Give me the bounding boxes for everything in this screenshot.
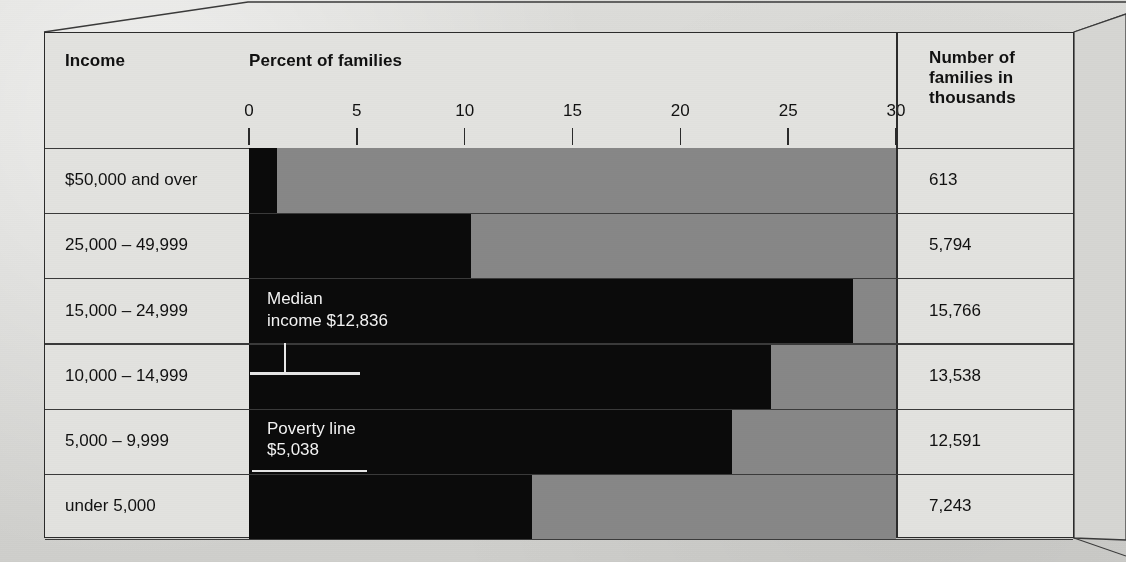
x-tick-mark-10 — [464, 128, 465, 145]
annotation-median-income: Median income $12,836 — [267, 288, 388, 332]
row-separator — [45, 474, 1073, 475]
row-value-count: 13,538 — [929, 366, 981, 386]
row-value-count: 15,766 — [929, 301, 981, 321]
table-row: 15,000 – 24,99915,766 — [45, 278, 1075, 343]
x-tick-label-5: 5 — [352, 101, 361, 121]
row-separator — [45, 409, 1073, 410]
x-tick-label-25: 25 — [779, 101, 798, 121]
annotation-median-leader-line — [284, 343, 286, 373]
x-tick-label-10: 10 — [455, 101, 474, 121]
table-row: under 5,0007,243 — [45, 474, 1075, 539]
bar-track-segment — [249, 148, 896, 213]
annotation-median-marker-line — [250, 372, 360, 374]
row-label-income: 25,000 – 49,999 — [65, 235, 188, 255]
bar-value-segment — [249, 474, 532, 539]
row-value-count: 12,591 — [929, 431, 981, 451]
x-tick-mark-0 — [248, 128, 249, 145]
row-label-income: $50,000 and over — [65, 170, 197, 190]
row-separator — [45, 213, 1073, 214]
row-value-count: 7,243 — [929, 496, 972, 516]
row-separator — [45, 278, 1073, 279]
x-tick-mark-20 — [680, 128, 681, 145]
bar-value-segment — [249, 213, 471, 278]
x-axis: 051015202530 — [45, 33, 1075, 148]
chart-stage: Income Percent of families Number of fam… — [0, 0, 1126, 562]
row-separator — [45, 343, 1073, 344]
annotation-poverty-line: Poverty line $5,038 — [267, 418, 356, 462]
x-tick-mark-25 — [787, 128, 788, 145]
bar-value-segment — [249, 343, 771, 408]
row-value-count: 613 — [929, 170, 957, 190]
bar-value-segment — [249, 148, 277, 213]
x-tick-label-20: 20 — [671, 101, 690, 121]
row-separator — [45, 539, 1073, 540]
row-value-count: 5,794 — [929, 235, 972, 255]
row-label-income: 5,000 – 9,999 — [65, 431, 169, 451]
x-tick-label-0: 0 — [244, 101, 253, 121]
row-label-income: 15,000 – 24,999 — [65, 301, 188, 321]
table-row: 5,000 – 9,99912,591 — [45, 409, 1075, 474]
table-row: 10,000 – 14,99913,538 — [45, 343, 1075, 408]
x-tick-mark-5 — [356, 128, 357, 145]
x-tick-label-15: 15 — [563, 101, 582, 121]
annotation-poverty-marker-line — [252, 470, 367, 472]
x-tick-mark-15 — [572, 128, 573, 145]
row-label-income: 10,000 – 14,999 — [65, 366, 188, 386]
row-label-income: under 5,000 — [65, 496, 156, 516]
table-header: Income Percent of families Number of fam… — [45, 33, 1073, 148]
chart-table: Income Percent of families Number of fam… — [44, 32, 1074, 538]
table-row: $50,000 and over613 — [45, 148, 1075, 213]
table-row: 25,000 – 49,9995,794 — [45, 213, 1075, 278]
